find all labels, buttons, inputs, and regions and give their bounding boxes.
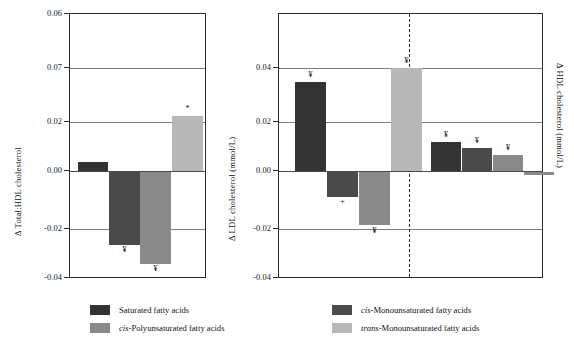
right-panel: Δ LDL cholesterol (mmol/L) Δ HDL cholest… xyxy=(215,0,574,300)
left-plot-area: ¥ ¥ * xyxy=(69,13,206,278)
legend-italic-prefix-cis-poly: cis xyxy=(119,323,129,333)
ldl-marker-cis-monounsaturated: + xyxy=(327,197,358,206)
left-tick-label-1: 0.07 xyxy=(26,63,62,72)
left-bar-cis-polyunsaturated xyxy=(140,172,171,264)
legend-italic-prefix-trans-mono: trans xyxy=(361,323,379,333)
hdl-marker-cis-monounsaturated: ¥ xyxy=(462,136,492,145)
left-gridline-0p07 xyxy=(70,68,205,69)
left-bar-trans-monounsaturated xyxy=(172,116,203,171)
hdl-bar-cis-polyunsaturated xyxy=(493,155,523,171)
legend-italic-prefix-cis-mono: cis xyxy=(361,305,371,315)
hdl-marker-cis-polyunsaturated: ¥ xyxy=(493,143,523,152)
legend-rest-cis-mono: -Monounsaturated fatty acids xyxy=(371,305,472,315)
legend-label-cis-polyunsaturated-fatty-acids: cis-Polyunsaturated fatty acids xyxy=(119,323,224,333)
legend-item-cis-monounsaturated-fatty-acids: cis-Monounsaturated fatty acids xyxy=(332,305,471,315)
right-plot-area: ¥ + ¥ ¥ ¥ ¥ ¥ xyxy=(278,13,543,278)
figure-root: Δ Total:HDL cholesterol 0.06 0.07 0.02 0… xyxy=(0,0,574,343)
ldl-bar-cis-monounsaturated xyxy=(327,172,358,197)
legend-swatch-cis-polyunsaturated-fatty-acids xyxy=(90,323,110,333)
left-marker-trans-monounsaturated: * xyxy=(172,104,203,113)
legend-item-cis-polyunsaturated-fatty-acids: cis-Polyunsaturated fatty acids xyxy=(90,323,224,333)
legend-rest-cis-poly: -Polyunsaturated fatty acids xyxy=(129,323,225,333)
ldl-bar-trans-monounsaturated xyxy=(391,68,422,171)
left-marker-cis-monounsaturated: ¥ xyxy=(109,245,140,254)
left-tick-label-2: 0.02 xyxy=(26,117,62,126)
left-tick-label-0: 0.06 xyxy=(26,9,62,18)
right-tick-label-4: -0.04 xyxy=(233,273,271,282)
legend-label-trans-monounsaturated-fatty-acids: trans-Monounsaturated fatty acids xyxy=(361,323,479,333)
legend-swatch-trans-monounsaturated-fatty-acids xyxy=(332,323,352,333)
right-panel-right-axis-title: Δ HDL cholesterol (mmol/L) xyxy=(555,63,565,168)
legend-label-cis-monounsaturated-fatty-acids: cis-Monounsaturated fatty acids xyxy=(361,305,471,315)
left-tick-label-4: -0.02 xyxy=(24,224,62,233)
legend: Saturated fatty acids cis-Polyunsaturate… xyxy=(0,300,574,343)
right-tick-label-2: 0.00 xyxy=(235,166,271,175)
legend-item-trans-monounsaturated-fatty-acids: trans-Monounsaturated fatty acids xyxy=(332,323,479,333)
right-zero-line xyxy=(279,171,542,172)
legend-swatch-saturated-fatty-acids xyxy=(90,305,110,315)
right-gridline-neg0p02 xyxy=(279,229,542,230)
right-tick-label-1: 0.02 xyxy=(235,117,271,126)
left-bar-saturated xyxy=(78,162,108,171)
ldl-bar-saturated xyxy=(295,82,326,171)
ldl-bar-cis-polyunsaturated xyxy=(359,172,390,225)
left-tick-label-3: 0.00 xyxy=(26,166,62,175)
left-panel: Δ Total:HDL cholesterol 0.06 0.07 0.02 0… xyxy=(0,0,215,300)
left-panel-y-axis-title: Δ Total:HDL cholesterol xyxy=(13,147,23,236)
legend-swatch-cis-monounsaturated-fatty-acids xyxy=(332,305,352,315)
ldl-marker-cis-polyunsaturated: ¥ xyxy=(359,226,390,235)
left-marker-cis-polyunsaturated: ¥ xyxy=(140,264,171,273)
hdl-bar-trans-monounsaturated xyxy=(524,172,554,175)
hdl-bar-cis-monounsaturated xyxy=(462,148,492,171)
hdl-marker-saturated: ¥ xyxy=(431,130,461,139)
right-tick-label-3: -0.02 xyxy=(233,224,271,233)
legend-rest-trans-mono: -Monounsaturated fatty acids xyxy=(379,323,480,333)
hdl-bar-saturated xyxy=(431,142,461,171)
left-tick-label-5: -0.04 xyxy=(24,273,62,282)
ldl-marker-trans-monounsaturated: ¥ xyxy=(391,56,422,65)
legend-item-saturated-fatty-acids: Saturated fatty acids xyxy=(90,305,189,315)
legend-label-saturated-fatty-acids: Saturated fatty acids xyxy=(119,305,189,315)
ldl-marker-saturated: ¥ xyxy=(295,70,326,79)
left-bar-cis-monounsaturated xyxy=(109,172,140,245)
right-tick-label-0: 0.04 xyxy=(235,63,271,72)
